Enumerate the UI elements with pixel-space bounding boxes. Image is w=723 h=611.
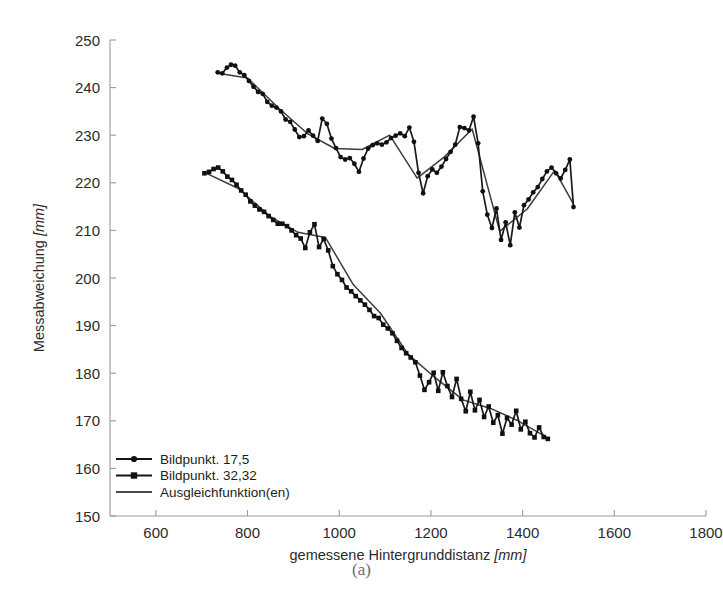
data-point bbox=[229, 62, 234, 67]
data-point bbox=[303, 246, 308, 251]
data-point bbox=[233, 63, 238, 68]
data-point bbox=[434, 170, 439, 175]
data-point bbox=[379, 142, 384, 147]
y-tick-label: 240 bbox=[75, 79, 100, 96]
data-point bbox=[540, 177, 545, 182]
data-point bbox=[311, 133, 316, 138]
data-point bbox=[375, 141, 380, 146]
data-point bbox=[242, 73, 247, 78]
data-point bbox=[220, 169, 225, 174]
data-point bbox=[279, 109, 284, 114]
chart-canvas: 150160170180190200210220230240250 600800… bbox=[0, 0, 723, 611]
data-point bbox=[256, 89, 261, 94]
data-point bbox=[271, 218, 276, 223]
data-point bbox=[358, 298, 363, 303]
data-point bbox=[490, 226, 495, 231]
data-point bbox=[541, 435, 546, 440]
x-axis-tick-labels: 60080010001200140016001800 bbox=[143, 524, 722, 541]
legend-marker-square bbox=[131, 472, 137, 478]
chart-legend: Bildpunkt. 17,5Bildpunkt. 32,32Ausgleich… bbox=[116, 452, 290, 500]
data-point bbox=[463, 409, 468, 414]
x-tick-label: 1600 bbox=[598, 524, 631, 541]
data-point bbox=[491, 420, 496, 425]
data-point bbox=[343, 157, 348, 162]
legend-marker-circle bbox=[131, 456, 137, 462]
data-point bbox=[480, 189, 485, 194]
data-point bbox=[518, 427, 523, 432]
data-point bbox=[315, 139, 320, 144]
x-tick-label: 1800 bbox=[689, 524, 722, 541]
data-point bbox=[393, 133, 398, 138]
data-point bbox=[526, 197, 531, 202]
data-point bbox=[444, 157, 449, 162]
data-point bbox=[308, 230, 313, 235]
data-point bbox=[427, 380, 432, 385]
data-point bbox=[545, 169, 550, 174]
data-point bbox=[454, 377, 459, 382]
data-point bbox=[302, 134, 307, 139]
data-point bbox=[522, 203, 527, 208]
data-point bbox=[505, 416, 510, 421]
data-point bbox=[571, 205, 576, 210]
legend-item-3: Ausgleichfunktion(en) bbox=[116, 485, 290, 500]
data-point bbox=[334, 146, 339, 151]
data-point bbox=[376, 316, 381, 321]
data-point bbox=[395, 339, 400, 344]
y-axis-label: Messabweichung [mm] bbox=[31, 203, 47, 352]
data-point bbox=[537, 425, 542, 430]
data-point bbox=[260, 91, 265, 96]
data-point bbox=[239, 188, 244, 193]
data-point bbox=[234, 182, 239, 187]
data-point bbox=[361, 156, 366, 161]
data-point bbox=[546, 437, 551, 442]
data-point bbox=[416, 170, 421, 175]
data-point bbox=[418, 373, 423, 378]
data-point bbox=[450, 395, 455, 400]
y-axis-tick-labels: 150160170180190200210220230240250 bbox=[75, 32, 100, 525]
data-point bbox=[289, 228, 294, 233]
data-point bbox=[514, 409, 519, 414]
data-point bbox=[262, 210, 267, 215]
data-point bbox=[276, 221, 281, 226]
data-point bbox=[445, 384, 450, 389]
data-point bbox=[412, 139, 417, 144]
data-point bbox=[353, 294, 358, 299]
data-point bbox=[389, 136, 394, 141]
data-point bbox=[431, 370, 436, 375]
data-point bbox=[344, 285, 349, 290]
data-point bbox=[471, 114, 476, 119]
data-point bbox=[225, 174, 230, 179]
data-point bbox=[381, 322, 386, 327]
data-point bbox=[340, 278, 345, 283]
data-point bbox=[425, 174, 430, 179]
figure-caption: (a) bbox=[0, 560, 723, 580]
data-point bbox=[407, 125, 412, 130]
data-point bbox=[421, 191, 426, 196]
data-point bbox=[494, 206, 499, 211]
data-point bbox=[225, 65, 230, 70]
y-tick-label: 150 bbox=[75, 508, 100, 525]
data-point bbox=[459, 397, 464, 402]
data-point bbox=[398, 131, 403, 136]
data-point bbox=[288, 119, 293, 124]
data-point bbox=[285, 224, 290, 229]
data-point bbox=[269, 103, 274, 108]
y-tick-label: 250 bbox=[75, 32, 100, 49]
data-point bbox=[549, 165, 554, 170]
data-point bbox=[567, 157, 572, 162]
data-point bbox=[366, 146, 371, 151]
data-point bbox=[554, 171, 559, 176]
data-point bbox=[563, 168, 568, 173]
y-tick-label: 220 bbox=[75, 174, 100, 191]
data-point bbox=[352, 161, 357, 166]
data-point bbox=[408, 355, 413, 360]
figure-container: 150160170180190200210220230240250 600800… bbox=[0, 0, 723, 611]
y-tick-label: 180 bbox=[75, 365, 100, 382]
data-point bbox=[265, 99, 270, 104]
legend-label: Ausgleichfunktion(en) bbox=[160, 485, 290, 500]
data-point bbox=[251, 84, 256, 89]
data-point bbox=[402, 134, 407, 139]
data-point bbox=[329, 136, 334, 141]
data-point bbox=[298, 236, 303, 241]
data-point bbox=[413, 360, 418, 365]
